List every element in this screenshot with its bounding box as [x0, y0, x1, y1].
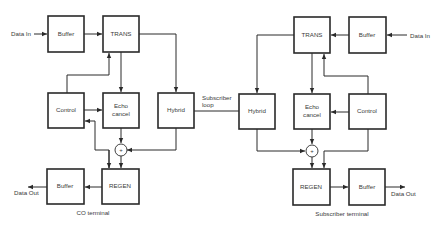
sub-control-label: Control [357, 107, 377, 114]
sub-regen-label: REGEN [300, 183, 322, 190]
co-echo-label-1: Echo [114, 102, 129, 109]
co-echo-cancel-block: Echo cancel [103, 93, 139, 128]
co-trans-block: TRANS [103, 16, 139, 52]
sub-summer-plus: + [310, 148, 314, 154]
co-hybrid-to-summer-arrow [127, 128, 176, 150]
sub-control-to-trans-arrow [324, 54, 368, 94]
sub-echo-label-2: cancel [303, 111, 321, 118]
subscriber-loop-label-2: loop [202, 101, 214, 108]
co-regen-block: REGEN [102, 169, 139, 204]
co-terminal: Data In Buffer TRANS Control Echo canc [11, 16, 194, 216]
subscriber-loop-label-1: Subscriber [202, 94, 232, 101]
sub-hybrid-block: Hybrid [239, 94, 275, 129]
sub-hybrid-label: Hybrid [248, 107, 266, 114]
co-terminal-caption: CO terminal [76, 209, 109, 216]
co-echo-label-2: cancel [112, 110, 130, 117]
sub-buffer-out-label: Buffer [359, 183, 375, 190]
co-regen-label: REGEN [109, 182, 131, 189]
co-data-out-label: Data Out [14, 189, 39, 196]
subscriber-loop: Subscriber loop [194, 94, 239, 111]
sub-buffer-in-block: Buffer [349, 17, 386, 53]
sub-trans-label: TRANS [302, 31, 323, 38]
co-summer-junction: + [115, 144, 127, 156]
co-control-to-trans-arrow [67, 53, 109, 93]
co-summer-plus: + [119, 147, 123, 153]
sub-summer-junction: + [306, 145, 318, 157]
co-buffer-out-label: Buffer [57, 182, 73, 189]
sub-control-to-regen-arrow [324, 129, 368, 168]
sub-buffer-out-block: Buffer [349, 169, 385, 205]
subscriber-terminal-caption: Subscriber terminal [315, 210, 368, 217]
co-data-in-label: Data In [11, 30, 32, 37]
sub-buffer-in-label: Buffer [359, 31, 375, 38]
sub-control-block: Control [349, 94, 386, 129]
co-hybrid-label: Hybrid [167, 106, 185, 113]
sub-data-out-label: Data Out [391, 190, 416, 197]
subscriber-terminal: Data In Buffer TRANS Hybrid Echo cancel [239, 17, 431, 217]
co-buffer-out-block: Buffer [47, 169, 84, 204]
sub-echo-label-1: Echo [305, 103, 320, 110]
co-hybrid-block: Hybrid [158, 93, 194, 128]
co-control-label: Control [56, 106, 76, 113]
echo-canceller-block-diagram: Data In Buffer TRANS Control Echo canc [0, 0, 439, 228]
co-buffer-in-block: Buffer [48, 16, 84, 52]
sub-trans-to-hybrid-arrow [257, 35, 294, 93]
sub-data-in-label: Data In [410, 32, 431, 39]
sub-regen-block: REGEN [293, 169, 330, 205]
co-trans-to-hybrid-arrow [139, 34, 176, 92]
sub-echo-cancel-block: Echo cancel [294, 94, 330, 129]
co-buffer-in-label: Buffer [58, 30, 74, 37]
sub-hybrid-to-summer-arrow [257, 129, 305, 151]
co-control-block: Control [48, 93, 84, 128]
sub-trans-block: TRANS [294, 17, 330, 53]
co-trans-label: TRANS [111, 30, 132, 37]
